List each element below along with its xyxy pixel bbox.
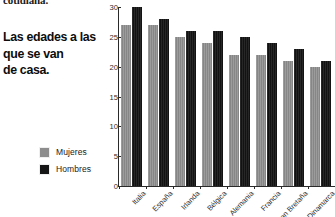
bar-mujeres-gran-bretaña [283, 7, 293, 186]
bar-hombres-francia [267, 7, 277, 186]
bar-rect [121, 25, 131, 186]
bar-hombres-bélgica [213, 7, 223, 186]
bar-mujeres-irlanda [175, 7, 185, 186]
bar-rect [283, 61, 293, 186]
y-tick-label-5: 5 [100, 152, 118, 161]
y-tick-label-0: 0 [100, 182, 118, 191]
x-tick-label-irlanda: Irlanda [179, 189, 201, 212]
bar-rect [175, 37, 185, 186]
legend-item-hombres: Hombres [39, 162, 91, 176]
bar-hombres-italia [132, 7, 142, 186]
x-tick-label-dinamarca: Dinamarca [305, 189, 335, 217]
bar-mujeres-bélgica [202, 7, 212, 186]
bar-rect [310, 67, 320, 186]
bar-mujeres-dinamarca [310, 7, 320, 186]
headline-line-2: que se van [3, 46, 107, 63]
y-tick-label-15: 15 [100, 92, 118, 101]
bar-hombres-dinamarca [321, 7, 331, 186]
y-tick-label-30: 30 [100, 3, 118, 12]
x-tick-mark-2 [173, 186, 174, 189]
legend-swatch-mujeres [39, 147, 50, 158]
bar-rect [229, 55, 239, 186]
x-tick-label-francia: Francia [258, 189, 282, 213]
x-tick-mark-3 [200, 186, 201, 189]
y-tick-label-25: 25 [100, 32, 118, 41]
x-tick-label-alemania: Alemania [227, 189, 255, 217]
x-tick-mark-6 [281, 186, 282, 189]
y-tick-label-20: 20 [100, 62, 118, 71]
bar-rect [186, 31, 196, 186]
bar-mujeres-alemania [229, 7, 239, 186]
bar-mujeres-francia [256, 7, 266, 186]
bar-mujeres-italia [121, 7, 131, 186]
headline-line-3: de casa. [3, 62, 107, 79]
bar-rect [213, 31, 223, 186]
bar-rect [132, 7, 142, 186]
bar-chart: 051015202530 ItaliaEspañaIrlandaBélgicaA… [100, 0, 335, 217]
legend-label-mujeres: Mujeres [56, 147, 87, 157]
bar-rect [148, 25, 158, 186]
legend-swatch-hombres [39, 164, 50, 175]
legend-item-mujeres: Mujeres [39, 145, 91, 159]
y-tick-label-10: 10 [100, 122, 118, 131]
bar-rect [321, 61, 331, 186]
infographic-page: cotidiana. Las edades a las que se van d… [0, 0, 335, 217]
headline-line-1: Las edades a las [3, 29, 107, 46]
bar-rect [294, 49, 304, 186]
bar-hombres-alemania [240, 7, 250, 186]
bar-mujeres-españa [148, 7, 158, 186]
x-tick-label-bélgica: Bélgica [205, 189, 228, 213]
bar-rect [240, 37, 250, 186]
bar-rect [256, 55, 266, 186]
x-tick-mark-4 [227, 186, 228, 189]
chart-legend: Mujeres Hombres [39, 145, 91, 179]
legend-label-hombres: Hombres [56, 164, 91, 174]
bar-hombres-gran-bretaña [294, 7, 304, 186]
x-tick-label-italia: Italia [130, 189, 147, 206]
x-tick-mark-0 [119, 186, 120, 189]
bar-rect [159, 19, 169, 186]
kicker-text: cotidiana. [3, 0, 107, 6]
bar-rect [202, 43, 212, 186]
page-title: Las edades a las que se van de casa. [3, 29, 107, 79]
bar-hombres-españa [159, 7, 169, 186]
bar-series-group [119, 7, 335, 186]
x-tick-mark-7 [308, 186, 309, 189]
x-tick-label-españa: España [150, 189, 174, 213]
bar-rect [267, 43, 277, 186]
x-tick-mark-1 [146, 186, 147, 189]
x-tick-mark-5 [254, 186, 255, 189]
bar-hombres-irlanda [186, 7, 196, 186]
